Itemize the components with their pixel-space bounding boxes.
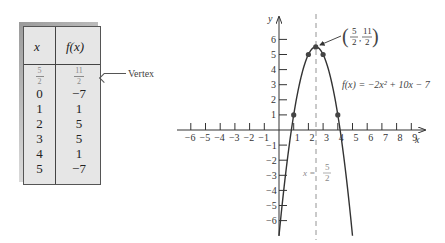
vertex-x-den: 2 — [352, 37, 357, 47]
y-tick-label: 3 — [271, 79, 276, 90]
aos-num: 5 — [325, 162, 330, 172]
aos-lhs: x = — [302, 168, 315, 178]
x-tick-label: −5 — [200, 132, 211, 143]
data-point — [306, 52, 311, 57]
y-tick-label: −6 — [266, 215, 277, 226]
left-paren: ( — [342, 25, 349, 48]
x-tick-label: 5 — [354, 132, 359, 143]
x-tick-label: −3 — [229, 132, 240, 143]
x-tick-label: −6 — [185, 132, 196, 143]
y-tick-label: 5 — [271, 49, 276, 60]
y-tick-label: 2 — [271, 94, 276, 105]
y-tick-label: −3 — [266, 170, 277, 181]
y-tick-label: 4 — [271, 64, 276, 75]
aos-den: 2 — [325, 173, 330, 183]
parabola-graph: −6−5−4−3−2−1123456789 654321−1−2−3−4−5−6… — [0, 0, 445, 243]
x-tick-label: 6 — [368, 132, 373, 143]
data-point — [291, 112, 296, 117]
y-axis-label: y — [267, 13, 273, 24]
vertex-pointer-arrow — [320, 36, 341, 45]
vertex-y-num: 11 — [363, 26, 372, 36]
x-tick-label: 8 — [398, 132, 403, 143]
y-tick-label: 6 — [271, 34, 276, 45]
x-tick-label: 2 — [309, 132, 314, 143]
data-point — [321, 52, 326, 57]
y-tick-label: 1 — [271, 109, 276, 120]
x-tick-label: 7 — [383, 132, 388, 143]
data-point — [335, 112, 340, 117]
y-tick-label: −4 — [266, 185, 277, 196]
function-label: f(x) = −2x² + 10x − 7 — [342, 79, 431, 91]
y-tick-label: −2 — [266, 155, 277, 166]
x-ticks: −6−5−4−3−2−1123456789 — [185, 123, 417, 143]
y-tick-label: −1 — [266, 140, 277, 151]
x-axis-label: x — [414, 134, 420, 145]
data-point — [313, 44, 318, 49]
x-tick-label: −4 — [214, 132, 225, 143]
vertex-coordinates: ( 5 2 , 11 2 ) — [342, 25, 379, 48]
comma: , — [359, 33, 361, 43]
x-tick-label: −2 — [244, 132, 255, 143]
x-tick-label: 1 — [295, 132, 300, 143]
axis-of-symmetry-label: x = 5 2 — [302, 162, 331, 183]
x-tick-label: 3 — [324, 132, 329, 143]
y-tick-label: −5 — [266, 200, 277, 211]
vertex-y-den: 2 — [365, 37, 370, 47]
vertex-x-num: 5 — [352, 26, 357, 36]
right-paren: ) — [372, 25, 379, 48]
